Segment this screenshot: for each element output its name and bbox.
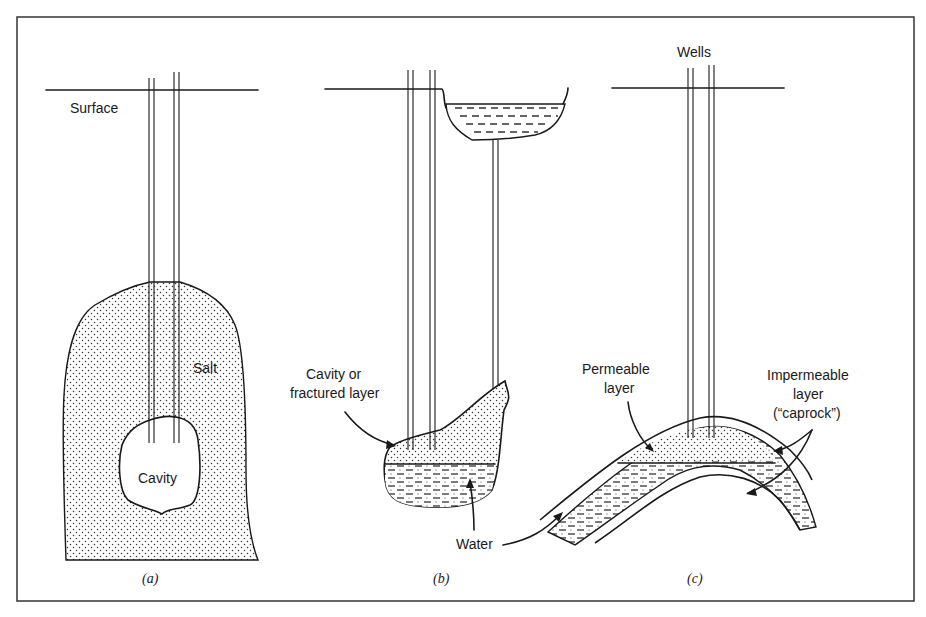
salt-label: Salt	[193, 360, 217, 376]
caprock-label: (“caprock”)	[773, 405, 841, 421]
surface-label: Surface	[70, 100, 118, 116]
surface-pond	[446, 104, 565, 140]
storage-diagram: Surface Salt Cavity (a)	[0, 0, 926, 617]
well-pipes-b	[408, 70, 435, 450]
caption-b: (b)	[433, 571, 450, 587]
cavity-or-label: Cavity or	[306, 366, 362, 382]
impermeable-label: Impermeable	[767, 367, 849, 383]
wells-label: Wells	[677, 44, 711, 60]
permeable-label: Permeable	[582, 361, 650, 377]
cavity-label: Cavity	[138, 470, 177, 486]
gas-cap	[618, 426, 775, 463]
cavity	[120, 417, 200, 514]
caption-a: (a)	[142, 571, 159, 587]
panel-c: Wells Permeable layer Impermeable layer …	[540, 44, 849, 587]
permeable-layer-word: layer	[604, 380, 635, 396]
fractured-layer-label: fractured layer	[290, 385, 380, 401]
water-label: Water	[456, 536, 493, 552]
well-pipes-c	[688, 65, 714, 438]
panel-b: Cavity or fractured layer Water (b)	[290, 70, 568, 587]
impermeable-layer-word: layer	[793, 386, 824, 402]
panel-a: Surface Salt Cavity (a)	[46, 72, 258, 587]
caption-c: (c)	[687, 571, 703, 587]
permeable-arrow	[628, 402, 652, 450]
fractured-layer-arrow	[345, 412, 394, 445]
